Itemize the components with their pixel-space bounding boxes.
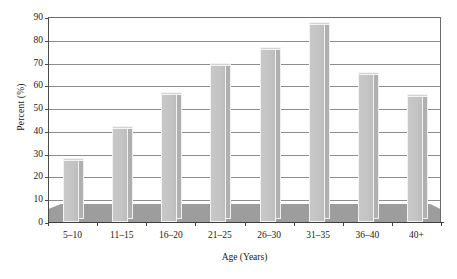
bar <box>63 158 84 222</box>
bar <box>309 22 330 222</box>
bar-top-face <box>210 63 231 66</box>
bar-top-face <box>309 22 330 25</box>
x-tick-mark <box>245 222 246 226</box>
bar-side-face <box>423 94 428 219</box>
bar-side-face <box>226 63 231 219</box>
bar-front-face <box>260 47 276 222</box>
bar-front-face <box>210 63 226 222</box>
x-tick-mark <box>97 222 98 226</box>
x-tick-label: 40+ <box>409 231 424 241</box>
bar-top-face <box>63 158 84 161</box>
y-axis-title: Percent (%) <box>16 47 26 167</box>
x-tick-label: 21–25 <box>208 231 232 241</box>
bar-side-face <box>177 92 182 219</box>
y-tick-label: 50 <box>34 104 44 114</box>
bar-top-face <box>112 126 133 129</box>
x-axis-line <box>48 222 444 223</box>
bar <box>358 72 379 222</box>
x-tick-label: 16–20 <box>159 231 183 241</box>
y-tick-label: 90 <box>34 13 44 23</box>
y-tick-label: 60 <box>34 82 44 92</box>
x-tick-label: 5–10 <box>63 231 82 241</box>
bar-side-face <box>276 47 281 219</box>
x-tick-label: 36–40 <box>355 231 379 241</box>
x-axis-title: Age (Years) <box>48 252 441 262</box>
x-tick-mark <box>48 222 49 226</box>
x-tick-label: 11–15 <box>110 231 133 241</box>
bar-front-face <box>161 92 177 222</box>
plot-area: 0102030405060708090 <box>48 17 441 222</box>
y-tick-label: 80 <box>34 36 44 46</box>
y-tick-label: 70 <box>34 59 44 69</box>
y-tick-label: 30 <box>34 150 44 160</box>
bar <box>260 47 281 222</box>
bar-chart: Percent (%) 0102030405060708090 5–1011–1… <box>0 0 457 279</box>
bar-front-face <box>63 158 79 222</box>
x-tick-mark <box>392 222 393 226</box>
y-tick-label: 40 <box>34 127 44 137</box>
bar-top-face <box>358 72 379 75</box>
bar-side-face <box>325 22 330 219</box>
bar-top-face <box>161 92 182 95</box>
x-tick-mark <box>343 222 344 226</box>
bar-side-face <box>79 158 84 219</box>
bar <box>407 94 428 222</box>
y-tick-label: 10 <box>34 195 44 205</box>
x-tick-mark <box>441 222 442 226</box>
bar <box>112 126 133 222</box>
bar-front-face <box>407 94 423 222</box>
bar-front-face <box>358 72 374 222</box>
bar-top-face <box>407 94 428 97</box>
bar-front-face <box>112 126 128 222</box>
x-tick-label: 31–35 <box>306 231 330 241</box>
bar-side-face <box>374 72 379 219</box>
x-tick-mark <box>146 222 147 226</box>
bar <box>210 63 231 222</box>
x-tick-label: 26–30 <box>257 231 281 241</box>
y-tick-label: 20 <box>34 173 44 183</box>
bar <box>161 92 182 222</box>
x-tick-mark <box>195 222 196 226</box>
bar-front-face <box>309 22 325 222</box>
bar-series <box>49 18 440 222</box>
x-tick-mark <box>294 222 295 226</box>
bar-top-face <box>260 47 281 50</box>
bar-side-face <box>128 126 133 219</box>
y-tick-label: 0 <box>38 218 43 228</box>
